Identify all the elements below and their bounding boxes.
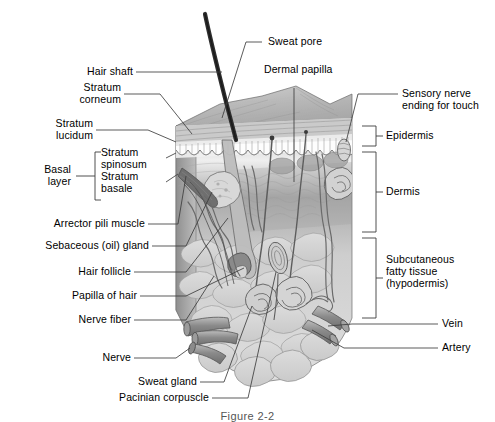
label-sebaceous-gland: Sebaceous (oil) gland (45, 240, 149, 252)
label-stratum-basale: Stratum basale (101, 171, 138, 195)
sensory-nerve-ending-structure (338, 139, 351, 161)
label-pacinian-corpuscle: Pacinian corpuscle (119, 392, 209, 404)
label-artery: Artery (442, 342, 471, 354)
label-hair-follicle: Hair follicle (78, 266, 131, 278)
label-basal-layer: Basal layer (44, 164, 71, 188)
label-arrector-pili-muscle: Arrector pili muscle (54, 218, 145, 230)
label-nerve-fiber: Nerve fiber (79, 314, 131, 326)
skin-cross-section-figure: Hair shaft Stratum corneum Stratum lucid… (0, 0, 495, 422)
label-sweat-gland: Sweat gland (138, 376, 197, 388)
sweat-pore-structure (270, 136, 275, 141)
label-dermal-papilla: Dermal papilla (264, 64, 333, 76)
label-stratum-spinosum: Stratum spinosum (101, 147, 147, 171)
label-epidermis: Epidermis (386, 130, 434, 142)
figure-caption: Figure 2-2 (0, 410, 495, 422)
label-sensory-nerve-ending: Sensory nerve ending for touch (402, 88, 479, 112)
skin-diagram-illustration (0, 0, 495, 422)
sweat-pore-structure-2 (304, 130, 308, 134)
label-subcutaneous-fatty-tissue: Subcutaneous fatty tissue (hypodermis) (386, 254, 454, 289)
label-hair-shaft: Hair shaft (87, 66, 133, 78)
label-sweat-pore: Sweat pore (268, 36, 322, 48)
label-stratum-corneum: Stratum corneum (79, 82, 121, 106)
label-nerve: Nerve (102, 352, 131, 364)
label-stratum-lucidum: Stratum lucidum (56, 118, 93, 142)
label-vein: Vein (442, 318, 463, 330)
label-dermis: Dermis (386, 186, 420, 198)
label-papilla-of-hair: Papilla of hair (72, 290, 137, 302)
